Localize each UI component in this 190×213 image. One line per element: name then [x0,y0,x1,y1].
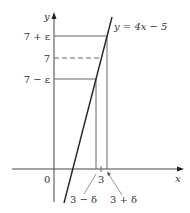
label-3-plus-delta: 3 + δ [110,194,137,205]
label-7-plus-eps: 7 + ε [24,31,50,42]
pointer-3-plus-delta [108,173,122,195]
line-y-4x-minus-5 [64,17,112,203]
diagram-svg: y x 0 7 + ε 7 7 − ε y = 4x − 5 3 3 − δ 3… [0,0,190,213]
pointer-3-minus-delta [84,174,96,194]
label-3: 3 [98,174,104,185]
x-axis-label: x [175,173,181,184]
y-axis-arrow-icon [52,12,57,19]
x-axis-arrow-icon [177,167,184,172]
equation-label: y = 4x − 5 [113,21,168,32]
origin-label: 0 [44,174,50,185]
arrow-head-3-plus-delta-icon [107,172,111,177]
y-axis-label: y [43,11,50,22]
label-3-minus-delta: 3 − δ [70,194,97,205]
epsilon-delta-diagram: y x 0 7 + ε 7 7 − ε y = 4x − 5 3 3 − δ 3… [0,0,190,213]
label-7: 7 [44,53,50,64]
label-7-minus-eps: 7 − ε [24,74,50,85]
